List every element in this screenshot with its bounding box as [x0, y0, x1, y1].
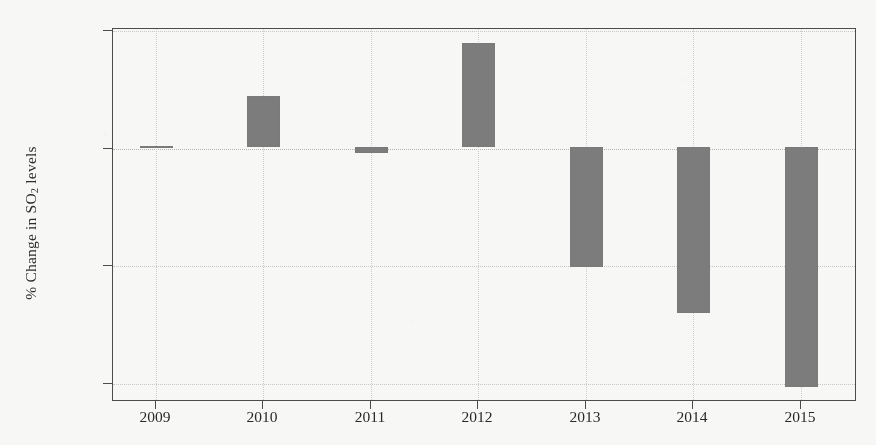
- y-tick-mark-10: [103, 30, 112, 31]
- bar-2014[interactable]: [677, 147, 710, 313]
- y-tick-mark-neg20: [103, 383, 112, 384]
- y-axis-title: % Change in SO2 levels: [8, 0, 54, 445]
- x-tick-label-2013: 2013: [550, 409, 620, 425]
- bar-2011[interactable]: [355, 147, 388, 153]
- plot-inner: [113, 29, 855, 400]
- bar-2013[interactable]: [570, 147, 603, 267]
- chart-page: % Change in SO2 levels 10 0 -10 -20: [0, 0, 876, 445]
- plot-area: [112, 28, 856, 401]
- bar-2012[interactable]: [462, 43, 495, 147]
- gridline-y-neg10: [113, 266, 855, 267]
- gridline-y-0: [113, 149, 855, 150]
- gridline-y-10: [113, 31, 855, 32]
- x-tick-label-2011: 2011: [335, 409, 405, 425]
- gridline-x-2011: [371, 29, 372, 400]
- y-axis-title-text: % Change in SO2 levels: [22, 146, 40, 299]
- x-tick-label-2009: 2009: [120, 409, 190, 425]
- x-tick-label-2015: 2015: [765, 409, 835, 425]
- y-axis-title-subscript: 2: [29, 187, 40, 192]
- bar-2015[interactable]: [785, 147, 818, 387]
- gridline-y-neg20: [113, 384, 855, 385]
- x-tick-label-2014: 2014: [657, 409, 727, 425]
- y-axis-title-post: levels: [22, 146, 39, 187]
- x-tick-label-2012: 2012: [442, 409, 512, 425]
- y-tick-mark-0: [103, 148, 112, 149]
- y-tick-mark-neg10: [103, 265, 112, 266]
- bar-2010[interactable]: [247, 96, 280, 147]
- gridline-x-2010: [263, 29, 264, 400]
- y-axis-title-pre: % Change in SO: [22, 193, 39, 300]
- x-tick-label-2010: 2010: [227, 409, 297, 425]
- bar-2009[interactable]: [140, 146, 173, 148]
- gridline-x-2009: [156, 29, 157, 400]
